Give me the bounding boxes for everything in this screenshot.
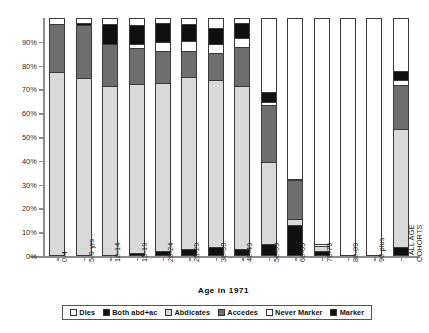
legend-label: Marker bbox=[340, 308, 365, 317]
y-tick bbox=[39, 161, 45, 163]
y-tick-label: 30% bbox=[22, 180, 37, 189]
bar-segment bbox=[130, 44, 144, 49]
bar-segment bbox=[394, 85, 408, 129]
x-tick bbox=[137, 256, 139, 261]
x-tick-label: 40-49 bbox=[245, 243, 254, 262]
bar-segment bbox=[50, 72, 64, 255]
bar-segment bbox=[262, 162, 276, 244]
legend-item-dies[interactable]: Dies bbox=[70, 308, 95, 317]
legend-swatch-icon bbox=[218, 309, 225, 316]
x-tick bbox=[322, 256, 324, 261]
legend-swatch-icon bbox=[103, 309, 110, 316]
y-tick-label: 40% bbox=[22, 156, 37, 165]
bar-segment bbox=[262, 105, 276, 162]
x-tick bbox=[110, 256, 112, 261]
y-tick-label: 20% bbox=[22, 204, 37, 213]
x-tick bbox=[216, 256, 218, 261]
bar-segment bbox=[394, 71, 408, 81]
y-tick bbox=[39, 256, 45, 258]
y-tick-label: 50% bbox=[22, 133, 37, 142]
x-tick-label: 0-4 bbox=[60, 251, 69, 262]
bar-segment bbox=[130, 84, 144, 253]
y-tick-label: 90% bbox=[22, 37, 37, 46]
bar-60-69 bbox=[287, 18, 303, 256]
legend-item-both-abd-ac[interactable]: Both abd+ac bbox=[103, 308, 158, 317]
bar-all-age-cohorts bbox=[393, 18, 409, 256]
legend-item-abdicates[interactable]: Abdicates bbox=[165, 308, 210, 317]
bar-segment bbox=[209, 53, 223, 80]
bar-segment bbox=[103, 44, 117, 86]
bar-segment bbox=[182, 51, 196, 77]
legend-label: Both abd+ac bbox=[112, 308, 157, 317]
bar-25-29 bbox=[181, 18, 197, 256]
y-tick bbox=[39, 232, 45, 234]
bar-segment bbox=[288, 219, 302, 225]
bar-segment bbox=[394, 129, 408, 247]
bar-segment bbox=[209, 28, 223, 45]
bar-segment bbox=[156, 51, 170, 83]
bar-segment bbox=[103, 24, 117, 44]
plot-area bbox=[44, 18, 414, 256]
bar-segment bbox=[156, 23, 170, 42]
x-tick-label: 90 plus bbox=[377, 237, 386, 262]
bar-segment bbox=[235, 38, 249, 46]
bar-segment bbox=[156, 83, 170, 251]
bar-10-14 bbox=[102, 18, 118, 256]
legend-label: Never Marker bbox=[275, 308, 322, 317]
y-tick-label: 10% bbox=[22, 228, 37, 237]
bar-segment bbox=[235, 86, 249, 249]
bar-20-24 bbox=[155, 18, 171, 256]
bar-segment bbox=[235, 47, 249, 86]
bar-80-89 bbox=[340, 18, 356, 256]
bar-segment bbox=[182, 24, 196, 41]
y-tick-label: 80% bbox=[22, 61, 37, 70]
bar-segment bbox=[130, 25, 144, 44]
x-tick bbox=[374, 256, 376, 261]
x-tick-label: 15-19 bbox=[140, 243, 149, 262]
x-tick bbox=[57, 256, 59, 261]
x-tick bbox=[242, 256, 244, 261]
x-tick-label: 30-39 bbox=[219, 243, 228, 262]
x-tick bbox=[189, 256, 191, 261]
legend-label: Dies bbox=[79, 308, 95, 317]
bar-segment bbox=[77, 23, 91, 25]
x-tick-label: 60-69 bbox=[298, 243, 307, 262]
bar-segment bbox=[77, 25, 91, 77]
y-tick bbox=[39, 89, 45, 91]
x-tick bbox=[401, 256, 403, 261]
bar-segment bbox=[235, 23, 249, 38]
x-tick-label: 50-59 bbox=[272, 243, 281, 262]
bar-segment bbox=[209, 80, 223, 247]
bar-segment bbox=[130, 48, 144, 84]
y-tick-label: 70% bbox=[22, 85, 37, 94]
x-axis-title: Age in 1971 bbox=[198, 286, 249, 295]
legend-item-marker[interactable]: Marker bbox=[330, 308, 364, 317]
bar-90-plus bbox=[366, 18, 382, 256]
y-tick-label: 0% bbox=[26, 252, 37, 261]
bar-segment bbox=[182, 77, 196, 248]
x-tick bbox=[269, 256, 271, 261]
x-tick bbox=[84, 256, 86, 261]
bar-segment bbox=[288, 180, 302, 219]
bar-40-49 bbox=[234, 18, 250, 256]
bar-segment bbox=[156, 42, 170, 50]
bar-segment bbox=[288, 179, 302, 180]
bar-30-39 bbox=[208, 18, 224, 256]
bar-5-9-yrs bbox=[76, 18, 92, 256]
x-tick-label: 5-9 yrs bbox=[87, 239, 96, 262]
y-tick bbox=[39, 137, 45, 139]
x-tick-label: 70-79 bbox=[325, 243, 334, 262]
bar-segment bbox=[182, 41, 196, 52]
bar-segment bbox=[103, 86, 117, 255]
y-tick bbox=[39, 66, 45, 68]
x-tick-label: 80-89 bbox=[351, 243, 360, 262]
legend-item-accedes[interactable]: Accedes bbox=[218, 308, 258, 317]
stacked-bar-chart: Age in 1971 DiesBoth abd+acAbdicatesAcce… bbox=[0, 0, 429, 333]
bar-70-79 bbox=[314, 18, 330, 256]
y-tick bbox=[39, 113, 45, 115]
y-tick bbox=[39, 208, 45, 210]
y-tick bbox=[39, 185, 45, 187]
legend-swatch-icon bbox=[266, 309, 273, 316]
x-tick bbox=[295, 256, 297, 261]
legend-item-never-marker[interactable]: Never Marker bbox=[266, 308, 323, 317]
